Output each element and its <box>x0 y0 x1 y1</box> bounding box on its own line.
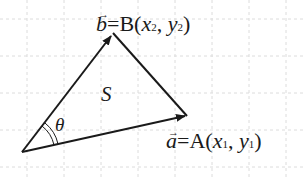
vector-arrow-a-icon: → <box>168 126 179 138</box>
label-a: → a =A(x1, y1) <box>166 128 261 154</box>
vector-triangle-diagram: → b =B(x2, y2) S θ → a =A(x1, y1) <box>0 0 303 179</box>
label-area-s: S <box>101 82 112 107</box>
side-ab <box>113 33 187 116</box>
angle-arc-outer <box>42 126 54 145</box>
label-b: → b =B(x2, y2) <box>96 11 190 37</box>
label-theta: θ <box>55 114 64 136</box>
vector-arrow-b-icon: → <box>98 8 109 20</box>
